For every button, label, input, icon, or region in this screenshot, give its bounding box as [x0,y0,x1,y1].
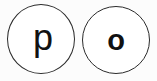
letter-glyph-p: p [33,20,53,56]
letter-circle-p[interactable]: p [7,4,75,74]
image-canvas: p o [0,0,157,81]
letter-circle-o[interactable]: o [82,6,150,74]
letter-glyph-o: o [107,26,125,55]
